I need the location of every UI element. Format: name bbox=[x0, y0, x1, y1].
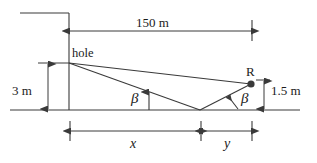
reflection-geometry-figure: 150 m hole 3 m R 1.5 m β β x y bbox=[0, 0, 317, 163]
label-dimension-y: y bbox=[224, 137, 230, 151]
point-r-marker bbox=[247, 80, 254, 87]
label-150m: 150 m bbox=[136, 16, 169, 29]
label-point-r: R bbox=[246, 65, 255, 78]
label-dimension-x: x bbox=[130, 137, 136, 151]
label-1-5m: 1.5 m bbox=[271, 84, 301, 97]
angle-pointer-right bbox=[228, 96, 238, 109]
label-beta-left: β bbox=[131, 91, 138, 106]
line-hole-to-r bbox=[69, 63, 251, 84]
label-beta-right: β bbox=[241, 91, 248, 106]
label-3m: 3 m bbox=[12, 84, 32, 97]
label-hole: hole bbox=[72, 47, 94, 60]
